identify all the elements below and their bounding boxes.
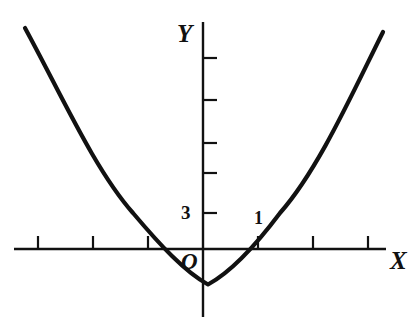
origin-label: O	[181, 250, 198, 273]
parabola-figure: Y X O 3 1	[0, 0, 418, 330]
x-axis-label: X	[390, 248, 407, 273]
graph-canvas	[0, 0, 418, 330]
y-tick-label-3: 3	[181, 203, 191, 222]
y-axis-ticks	[203, 58, 217, 213]
y-axis-label: Y	[177, 21, 192, 46]
x-tick-label-1: 1	[254, 209, 263, 227]
